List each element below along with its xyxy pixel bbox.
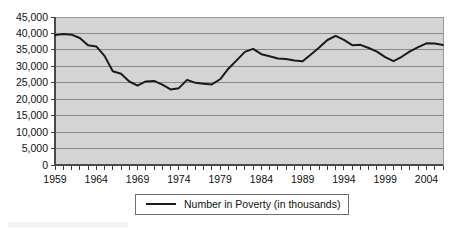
x-axis-tick-label: 1959 <box>43 173 67 185</box>
y-axis-tick-label: 45,000 <box>16 11 48 23</box>
chart-canvas: 05,00010,00015,00020,00025,00030,00035,0… <box>0 0 455 230</box>
y-axis-tick-label: 25,000 <box>16 76 48 88</box>
x-axis-tick-label: 1994 <box>332 173 356 185</box>
page-artifact <box>8 222 128 227</box>
x-axis-tick-label: 1964 <box>85 173 109 185</box>
x-axis-tick-label: 1974 <box>167 173 191 185</box>
legend-label: Number in Poverty (in thousands) <box>184 198 340 210</box>
y-axis-tick-label: 10,000 <box>16 126 48 138</box>
y-axis-tick-label: 40,000 <box>16 27 48 39</box>
y-axis-tick-label: 20,000 <box>16 93 48 105</box>
plot-area-background <box>55 17 443 165</box>
y-axis-tick-label: 0 <box>42 159 48 171</box>
y-axis-tick-label: 35,000 <box>16 43 48 55</box>
y-axis-tick-label: 5,000 <box>22 142 48 154</box>
x-axis-tick-label: 1979 <box>208 173 232 185</box>
y-axis-tick-label: 15,000 <box>16 109 48 121</box>
x-axis-tick-label: 1989 <box>291 173 315 185</box>
y-axis-tick-label: 30,000 <box>16 60 48 72</box>
x-axis-tick-label: 2004 <box>415 173 439 185</box>
poverty-line-chart: 05,00010,00015,00020,00025,00030,00035,0… <box>0 0 455 230</box>
x-axis-tick-label: 1984 <box>250 173 274 185</box>
x-axis-tick-label: 1969 <box>126 173 150 185</box>
x-axis-tick-label: 1999 <box>374 173 398 185</box>
